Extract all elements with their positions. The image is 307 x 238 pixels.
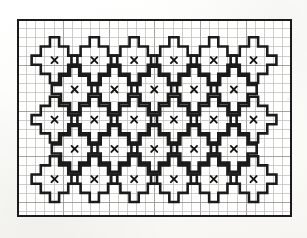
- pattern-chart-canvas: [17, 19, 292, 217]
- cross-motif-outlines: [32, 37, 277, 202]
- pattern-chart: [17, 19, 292, 217]
- page-root: [0, 0, 307, 238]
